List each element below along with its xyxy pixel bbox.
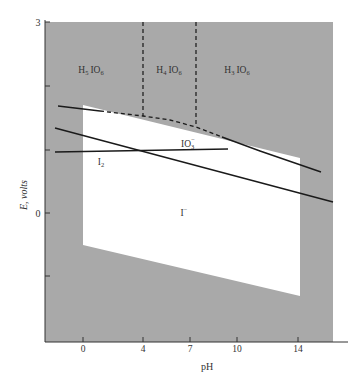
x-tick-label-7: 7: [188, 344, 193, 354]
y-axis-label: E, volts: [18, 180, 29, 211]
x-tick-label-14: 14: [293, 344, 303, 354]
pourbaix-diagram: 3 0 0 4 7 10 14 pH E, volts H5IO6 H4IO6 …: [0, 0, 364, 391]
y-tick-label-0: 0: [36, 208, 41, 219]
y-tick-label-3: 3: [36, 17, 41, 28]
x-tick-label-4: 4: [141, 344, 146, 354]
x-tick-label-0: 0: [81, 344, 86, 354]
x-axis-label: pH: [201, 361, 213, 372]
x-tick-label-10: 10: [232, 344, 242, 354]
region-label-io3-minus: IO3−: [181, 136, 195, 150]
